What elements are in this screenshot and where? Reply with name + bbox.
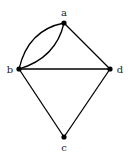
node-c: [61, 134, 66, 139]
edge-a-b-inner: [19, 23, 64, 69]
node-b: [16, 66, 21, 71]
edges: [19, 23, 110, 137]
edge-a-b-outer: [19, 23, 64, 69]
node-d: [107, 66, 112, 71]
edge-d-c: [64, 69, 110, 137]
edge-b-c: [19, 69, 64, 137]
edge-a-d: [64, 23, 110, 69]
nodes: [16, 20, 112, 139]
node-a: [61, 20, 66, 25]
node-label-c: c: [61, 142, 67, 153]
labels: a b c d: [7, 7, 124, 153]
graph-diagram: a b c d: [0, 0, 137, 154]
node-label-a: a: [61, 7, 67, 18]
node-label-b: b: [7, 64, 13, 75]
node-label-d: d: [117, 64, 124, 75]
